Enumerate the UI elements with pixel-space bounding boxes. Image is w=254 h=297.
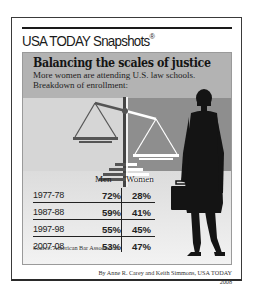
- byline-credit: By Anne R. Carey and Keith Simmons, USA …: [98, 268, 232, 286]
- table-row: 1977-78 72% 28%: [33, 186, 155, 203]
- table-row: 1997-98 55% 45%: [33, 220, 155, 237]
- brand-text: USA TODAY Snapshots: [22, 33, 149, 49]
- row-year: 1997-98: [33, 224, 64, 234]
- row-women-value: 28%: [132, 190, 151, 201]
- source-note: Source: American Bar Association: [33, 244, 118, 251]
- row-women-value: 47%: [132, 241, 151, 252]
- row-men-value: 72%: [102, 190, 121, 201]
- row-men-value: 55%: [102, 224, 121, 235]
- byline-text: By Anne R. Carey and Keith Simmons, USA …: [98, 268, 232, 277]
- row-year: 1977-78: [33, 190, 64, 200]
- row-women-value: 45%: [132, 224, 151, 235]
- brand-title: USA TODAY Snapshots®: [22, 33, 154, 49]
- column-header-women: Women: [126, 174, 154, 184]
- row-women-value: 41%: [132, 207, 151, 218]
- registered-mark: ®: [149, 32, 154, 41]
- infographic-panel: Balancing the scales of justice More wom…: [22, 52, 232, 265]
- table-row: 1987-88 59% 41%: [33, 203, 155, 220]
- row-men-value: 59%: [102, 207, 121, 218]
- byline-year: 2008: [98, 277, 232, 286]
- header-rule: [22, 27, 232, 29]
- row-year: 1987-88: [33, 207, 64, 217]
- column-header-men: Men: [95, 174, 112, 184]
